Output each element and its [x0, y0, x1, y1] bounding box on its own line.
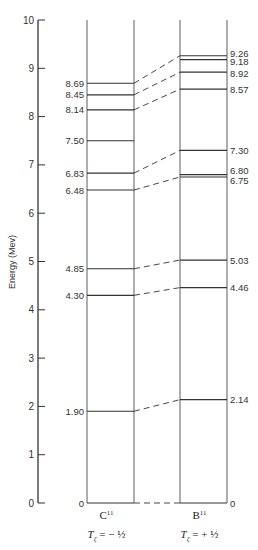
correspondence-link — [134, 72, 180, 95]
level-label: 0 — [230, 498, 235, 509]
level-label: 6.83 — [66, 168, 85, 179]
axis-tick-label: 2 — [28, 401, 34, 412]
level-label: 7.30 — [230, 145, 249, 156]
level-label: 1.90 — [66, 406, 85, 417]
correspondence-link — [134, 150, 180, 173]
correspondence-link — [134, 400, 180, 412]
axis-tick-label: 3 — [28, 353, 34, 364]
y-axis-label: Energy (Mev) — [7, 235, 17, 289]
level-correspondence-links — [134, 56, 180, 503]
nucleus-labels: C11Tζ = − ½B11Tζ = + ½ — [88, 509, 219, 543]
axis-tick-label: 6 — [28, 208, 34, 219]
correspondence-link — [134, 288, 180, 296]
axis-tick-label: 5 — [28, 256, 34, 267]
energy-axis: 012345678910 — [23, 15, 45, 509]
axis-tick-label: 1 — [28, 449, 34, 460]
level-label: 7.50 — [66, 135, 85, 146]
level-label: 8.45 — [66, 89, 85, 100]
correspondence-link — [134, 56, 180, 84]
level-label: 2.14 — [230, 394, 249, 405]
level-label: 4.30 — [66, 290, 85, 301]
axis-title: Energy (Mev) — [7, 235, 17, 289]
level-label: 9.26 — [230, 48, 249, 59]
level-label: 8.57 — [230, 84, 249, 95]
correspondence-link — [134, 260, 180, 269]
axis-tick-label: 9 — [28, 63, 34, 74]
column-b11: 02.144.465.036.756.807.308.578.929.189.2… — [180, 20, 249, 509]
nucleus-label: C11 — [99, 509, 114, 521]
axis-tick-label: 4 — [28, 304, 34, 315]
level-label: 4.85 — [66, 263, 85, 274]
level-label: 5.03 — [230, 255, 249, 266]
level-label: 6.48 — [66, 185, 85, 196]
level-label: 8.69 — [66, 78, 85, 89]
energy-level-diagram: 012345678910 Energy (Mev) 01.904.304.856… — [0, 0, 258, 550]
correspondence-link — [134, 89, 180, 110]
axis-tick-label: 8 — [28, 111, 34, 122]
level-label: 0 — [79, 498, 84, 509]
level-label: 6.80 — [230, 165, 249, 176]
isospin-label: Tζ = − ½ — [88, 528, 126, 543]
level-label: 4.46 — [230, 282, 249, 293]
nucleus-label: B11 — [192, 509, 207, 521]
isospin-label: Tζ = + ½ — [181, 528, 219, 543]
axis-tick-label: 0 — [28, 498, 34, 509]
axis-tick-label: 7 — [28, 159, 34, 170]
column-c11: 01.904.304.856.486.837.508.148.458.69 — [66, 20, 135, 509]
level-label: 8.92 — [230, 68, 249, 79]
axis-tick-label: 10 — [23, 15, 35, 26]
level-label: 6.75 — [230, 175, 249, 186]
correspondence-link — [134, 177, 180, 190]
level-label: 8.14 — [66, 104, 85, 115]
